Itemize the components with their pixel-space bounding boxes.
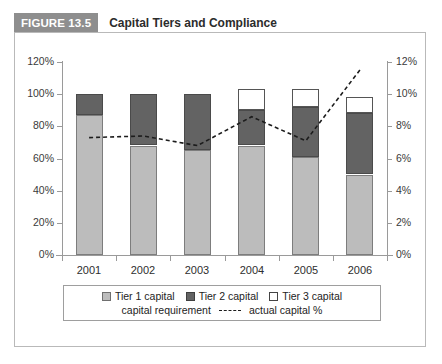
- bar-segment-tier2: [346, 113, 373, 174]
- left-axis-tick: [57, 159, 62, 160]
- bar-segment-tier2: [292, 107, 319, 157]
- legend-label-tier2: Tier 2 capital: [199, 290, 259, 302]
- bar-segment-tier1: [238, 146, 265, 255]
- right-axis-tick-label: 4%: [396, 184, 436, 196]
- left-axis-tick: [57, 223, 62, 224]
- legend-label-tier1: Tier 1 capital: [115, 290, 175, 302]
- right-axis-tick-label: 2%: [396, 216, 436, 228]
- left-axis-tick: [57, 62, 62, 63]
- bar-segment-tier2: [184, 94, 211, 150]
- x-axis-tick: [62, 256, 63, 261]
- bar-segment-tier1: [292, 157, 319, 255]
- right-axis-tick-label: 8%: [396, 119, 436, 131]
- left-axis-tick-label: 40%: [12, 184, 54, 196]
- right-axis-tick-label: 12%: [396, 55, 436, 67]
- legend-item-tier2: Tier 2 capital: [186, 290, 259, 302]
- figure-container: FIGURE 13.5 Capital Tiers and Compliance…: [0, 0, 442, 364]
- left-axis-tick-label: 80%: [12, 119, 54, 131]
- right-axis-tick: [387, 126, 392, 127]
- dashed-line-sample-icon: [219, 310, 241, 311]
- x-axis-tick-label: 2006: [330, 264, 390, 276]
- x-axis-tick: [387, 256, 388, 261]
- left-axis-tick-label: 100%: [12, 87, 54, 99]
- bar-segment-tier3: [292, 89, 319, 107]
- legend-row-tiers: Tier 1 capital Tier 2 capital Tier 3 cap…: [102, 290, 342, 302]
- legend-label-capital-requirement: capital requirement: [122, 304, 211, 316]
- chart-legend: Tier 1 capital Tier 2 capital Tier 3 cap…: [63, 285, 381, 321]
- legend-label-actual-capital: actual capital %: [249, 304, 323, 316]
- right-axis-tick: [387, 191, 392, 192]
- left-axis-tick: [57, 126, 62, 127]
- x-axis-tick: [279, 256, 280, 261]
- bar-segment-tier2: [130, 94, 157, 145]
- right-axis-tick: [387, 223, 392, 224]
- x-axis-tick: [333, 256, 334, 261]
- legend-label-tier3: Tier 3 capital: [282, 290, 342, 302]
- left-axis-line: [62, 61, 63, 256]
- bar-segment-tier1: [130, 146, 157, 255]
- tier2-swatch-icon: [186, 292, 195, 301]
- legend-item-tier3: Tier 3 capital: [269, 290, 342, 302]
- bar-segment-tier2: [76, 94, 103, 115]
- left-axis-tick-label: 60%: [12, 152, 54, 164]
- left-axis-tick: [57, 94, 62, 95]
- right-axis-tick-label: 0%: [396, 248, 436, 260]
- x-axis-tick-label: 2003: [167, 264, 227, 276]
- left-axis-tick-label: 20%: [12, 216, 54, 228]
- x-axis-tick-label: 2002: [113, 264, 173, 276]
- bar-segment-tier2: [238, 110, 265, 145]
- tier3-swatch-icon: [269, 292, 278, 301]
- right-axis-tick: [387, 159, 392, 160]
- left-axis-tick: [57, 191, 62, 192]
- bar-segment-tier3: [238, 89, 265, 110]
- bar-segment-tier1: [184, 150, 211, 255]
- x-axis-tick-label: 2001: [59, 264, 119, 276]
- x-axis-tick-label: 2005: [276, 264, 336, 276]
- right-axis-tick: [387, 94, 392, 95]
- bar-segment-tier1: [346, 175, 373, 255]
- x-axis-tick: [225, 256, 226, 261]
- legend-item-tier1: Tier 1 capital: [102, 290, 175, 302]
- bar-segment-tier3: [346, 97, 373, 113]
- bar-segment-tier1: [76, 115, 103, 255]
- tier1-swatch-icon: [102, 292, 111, 301]
- right-axis-tick-label: 6%: [396, 152, 436, 164]
- right-axis-tick-label: 10%: [396, 87, 436, 99]
- left-axis-tick-label: 120%: [12, 55, 54, 67]
- x-axis-tick: [170, 256, 171, 261]
- x-axis-tick-label: 2004: [222, 264, 282, 276]
- legend-row-line: capital requirement actual capital %: [122, 304, 323, 316]
- right-axis-tick: [387, 62, 392, 63]
- left-axis-tick-label: 0%: [12, 248, 54, 260]
- x-axis-tick: [116, 256, 117, 261]
